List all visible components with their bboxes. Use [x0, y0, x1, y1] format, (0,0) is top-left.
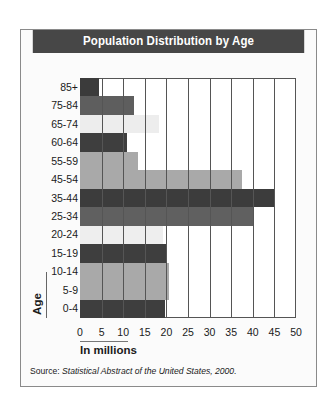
x-tick-label: 40 — [247, 326, 259, 338]
gridline — [274, 78, 275, 318]
x-tick-label: 25 — [182, 326, 194, 338]
y-tick-label: 60-64 — [51, 136, 78, 148]
x-tick-label: 15 — [139, 326, 151, 338]
bar-65-74 — [80, 115, 159, 133]
y-tick-label: 0-4 — [63, 302, 78, 314]
gridline — [102, 78, 103, 318]
y-tick-label: 55-59 — [51, 155, 78, 167]
x-tick-label: 5 — [99, 326, 105, 338]
bar-5-9 — [80, 281, 169, 299]
gridline — [210, 78, 211, 318]
chart-title: Population Distribution by Age — [33, 30, 304, 53]
y-tick-label: 5-9 — [63, 284, 78, 296]
bar-20-24 — [80, 226, 163, 244]
y-tick-label: 35-44 — [51, 192, 78, 204]
y-tick-label: 45-54 — [51, 173, 78, 185]
bar-35-44 — [80, 189, 275, 207]
source-title: Statistical Abstract of the United State… — [62, 366, 237, 376]
x-tick-label: 35 — [225, 326, 237, 338]
y-label-rule — [46, 272, 47, 318]
x-tick-label: 0 — [77, 326, 83, 338]
y-tick-label: 85+ — [60, 81, 78, 93]
bar-55-59 — [80, 152, 138, 170]
gridline — [231, 78, 232, 318]
gridline — [123, 78, 124, 318]
gridline — [253, 78, 254, 318]
y-tick-label: 15-19 — [51, 247, 78, 259]
bar-75-84 — [80, 96, 134, 114]
bar-60-64 — [80, 133, 127, 151]
y-tick-label: 65-74 — [51, 118, 78, 130]
gridline — [188, 78, 189, 318]
bar-45-54 — [80, 170, 242, 188]
source-prefix: Source: — [30, 366, 62, 376]
gridline — [145, 78, 146, 318]
x-axis-label: In millions — [80, 344, 137, 356]
x-tick-label: 30 — [204, 326, 216, 338]
x-tick-label: 50 — [290, 326, 302, 338]
y-tick-label: 75-84 — [51, 99, 78, 111]
bar-85plus — [80, 78, 99, 96]
y-tick-label: 10-14 — [51, 265, 78, 277]
source-note: Source: Statistical Abstract of the Unit… — [30, 366, 237, 376]
x-label-rule — [80, 341, 128, 342]
x-tick-label: 10 — [117, 326, 129, 338]
x-tick-label: 20 — [161, 326, 173, 338]
y-axis-label: Age — [31, 289, 43, 319]
y-tick-label: 20-24 — [51, 228, 78, 240]
gridline — [166, 78, 167, 318]
x-tick-label: 45 — [269, 326, 281, 338]
y-tick-label: 25-34 — [51, 210, 78, 222]
bar-10-14 — [80, 263, 169, 281]
